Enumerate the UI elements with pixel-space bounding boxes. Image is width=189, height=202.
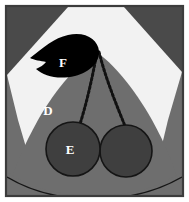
figure-canvas: D E F <box>0 0 189 202</box>
label-e: E <box>66 142 75 157</box>
illustration-content: D E F <box>7 7 182 199</box>
cherry-figure: D E F <box>0 0 189 202</box>
label-d: D <box>43 103 52 118</box>
label-f: F <box>59 55 67 70</box>
right-cherry-circle <box>100 125 152 177</box>
